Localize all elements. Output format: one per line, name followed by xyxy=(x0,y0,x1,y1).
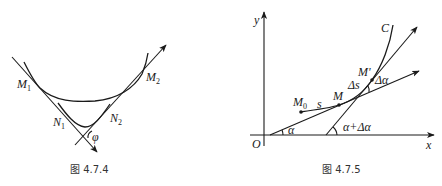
tangent-line-m2 xyxy=(75,45,166,145)
point-m xyxy=(337,103,341,107)
label-origin: O xyxy=(252,137,261,151)
label-phi: φ xyxy=(92,130,99,144)
figure-4-7-4: M1 M2 N1 N2 φ 图 4.7.4 xyxy=(12,45,166,175)
angle-delta-alpha-arc xyxy=(368,86,369,92)
label-curve-c: C xyxy=(381,21,390,35)
label-m2: M2 xyxy=(145,70,160,86)
angle-alpha-delta-arc xyxy=(333,127,337,135)
label-n1: N1 xyxy=(52,115,65,131)
label-n2: N2 xyxy=(109,111,122,127)
point-m-prime xyxy=(370,78,374,82)
tangent-line-m1 xyxy=(12,57,97,152)
label-m-prime: M' xyxy=(357,65,371,79)
caption-4-7-4: 图 4.7.4 xyxy=(70,164,109,175)
figures-canvas: M1 M2 N1 N2 φ 图 4.7.4 y x O C M0 s M xyxy=(0,0,442,186)
label-delta-s: Δs xyxy=(347,78,360,92)
label-m1: M1 xyxy=(16,77,31,93)
label-delta-alpha: Δα xyxy=(374,73,389,87)
label-y-axis: y xyxy=(253,13,260,27)
caption-4-7-5: 图 4.7.5 xyxy=(322,164,361,175)
label-m: M xyxy=(332,89,344,103)
label-alpha: α xyxy=(288,123,295,137)
curve-m1-m2 xyxy=(24,53,148,101)
angle-alpha-arc xyxy=(282,130,283,135)
label-s: s xyxy=(317,97,322,111)
figure-4-7-5: y x O C M0 s M M' Δs Δα α α+Δα 图 4.7.5 xyxy=(250,12,434,175)
curve-c xyxy=(300,25,393,112)
label-m0: M0 xyxy=(292,95,307,111)
curve-n1-n2 xyxy=(58,103,110,127)
label-alpha-plus-delta: α+Δα xyxy=(343,120,371,134)
label-x-axis: x xyxy=(425,138,432,152)
